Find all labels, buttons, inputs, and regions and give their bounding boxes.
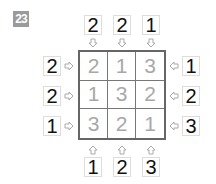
arrow-down-icon <box>88 38 98 48</box>
clue-right-1: 1 <box>182 56 200 76</box>
clue-top-1: 2 <box>84 15 102 35</box>
arrow-up-icon <box>146 145 156 155</box>
arrow-down-icon <box>117 38 127 48</box>
arrow-right-icon <box>64 121 74 131</box>
clue-left-3: 1 <box>43 116 61 136</box>
clue-bottom-1: 1 <box>84 157 102 177</box>
grid-cell[interactable]: 2 <box>80 52 108 81</box>
arrow-left-icon <box>169 91 179 101</box>
grid-cell[interactable]: 1 <box>80 81 108 110</box>
clue-left-1: 2 <box>43 56 61 76</box>
clue-top-3: 1 <box>142 15 160 35</box>
arrow-left-icon <box>169 61 179 71</box>
arrow-up-icon <box>88 145 98 155</box>
arrow-left-icon <box>169 121 179 131</box>
grid-cell[interactable]: 3 <box>80 109 108 138</box>
clue-bottom-2: 2 <box>113 157 131 177</box>
puzzle-number-badge: 23 <box>13 11 29 27</box>
arrow-right-icon <box>64 91 74 101</box>
grid-cell[interactable]: 3 <box>108 81 136 110</box>
clue-right-2: 2 <box>182 86 200 106</box>
clue-left-2: 2 <box>43 86 61 106</box>
grid-cell[interactable]: 2 <box>108 109 136 138</box>
grid-cell[interactable]: 1 <box>108 52 136 81</box>
grid-cell[interactable]: 1 <box>136 109 164 138</box>
grid-cell[interactable]: 3 <box>136 52 164 81</box>
puzzle-grid: 2 1 3 1 3 2 3 2 1 <box>78 50 166 140</box>
clue-bottom-3: 3 <box>142 157 160 177</box>
arrow-down-icon <box>146 38 156 48</box>
clue-right-3: 3 <box>182 116 200 136</box>
grid-cell[interactable]: 2 <box>136 81 164 110</box>
arrow-right-icon <box>64 61 74 71</box>
arrow-up-icon <box>117 145 127 155</box>
clue-top-2: 2 <box>113 15 131 35</box>
